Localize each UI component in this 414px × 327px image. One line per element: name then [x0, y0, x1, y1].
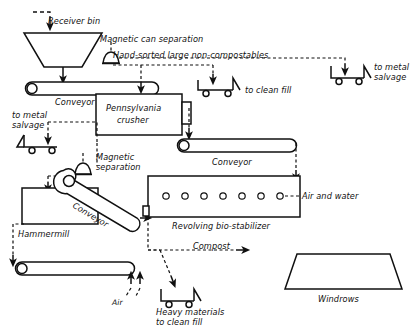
to-metal-salvage-right-line1: to metal — [374, 62, 410, 72]
revolving-bio-stabilizer — [143, 176, 300, 217]
magnetic-separation-line2: separation — [96, 162, 141, 172]
magnetic-can-separation-label: Magnetic can separation — [100, 34, 203, 44]
to-metal-salvage-right-line2: salvage — [374, 72, 406, 82]
revolving-bio-stabilizer-label: Revolving bio-stabilizer — [172, 221, 271, 231]
pennsylvania-crusher-line1: Pennsylvania — [106, 103, 161, 113]
pennsylvania-crusher-line2: crusher — [117, 115, 149, 125]
air-label: Air — [111, 298, 124, 307]
to-metal-salvage-cart-right — [331, 66, 371, 85]
compost-label: Compost — [193, 241, 231, 251]
receiver-bin-label: Receiver bin — [48, 16, 100, 26]
conveyor-1 — [26, 82, 159, 95]
conveyor-2-label: Conveyor — [212, 157, 252, 167]
heavy-materials-line2: to clean fill — [156, 317, 203, 327]
windrows — [285, 254, 402, 289]
conveyor-4 — [16, 262, 135, 275]
air-and-water-label: Air and water — [301, 191, 359, 201]
heavy-materials-line1: Heavy materials — [156, 307, 225, 317]
conveyor-1-label: Conveyor — [55, 97, 95, 107]
hammermill-label: Hammermill — [18, 229, 70, 239]
to-metal-salvage-cart-left — [17, 135, 57, 154]
heavy-materials-cart — [161, 289, 201, 308]
process-flow-diagram: Receiver bin Conveyor Magnetic can separ… — [0, 0, 414, 327]
magnetic-separation-line1: Magnetic — [96, 152, 135, 162]
to-metal-salvage-left-line2: salvage — [12, 120, 44, 130]
to-clean-fill-cart — [198, 78, 240, 97]
to-metal-salvage-left-line1: to metal — [12, 110, 48, 120]
windrows-label: Windrows — [318, 294, 360, 304]
to-clean-fill-label: to clean fill — [245, 85, 292, 95]
magnetic-separation-icon — [74, 153, 92, 175]
air-arrows — [126, 275, 140, 296]
heavy-materials-routing — [148, 250, 174, 284]
diagram-canvas: Receiver bin Conveyor Magnetic can separ… — [0, 0, 414, 327]
receiver-bin — [24, 33, 102, 80]
conveyor-2 — [178, 139, 297, 152]
